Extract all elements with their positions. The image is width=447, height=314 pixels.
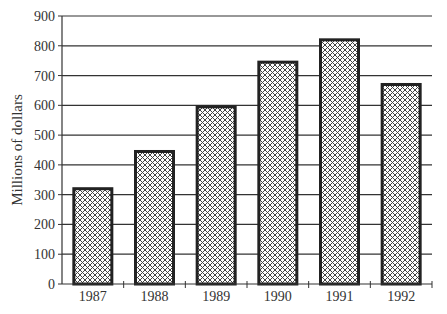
x-tick-label: 1991 [326,289,354,304]
bar-1991 [321,40,359,284]
x-tick-label: 1989 [202,289,230,304]
bar-1992 [382,84,420,284]
x-tick-label: 1992 [387,289,415,304]
y-tick-label: 600 [34,98,55,113]
y-tick-label: 0 [48,277,55,292]
bar-1988 [136,151,174,284]
y-tick-label: 500 [34,128,55,143]
x-tick-label: 1988 [141,289,169,304]
y-tick-label: 300 [34,188,55,203]
gridlines [62,16,432,254]
y-tick-label: 200 [34,217,55,232]
x-tick-label: 1990 [264,289,292,304]
bar-1990 [259,62,297,284]
y-tick-label: 700 [34,69,55,84]
y-tick-label: 400 [34,158,55,173]
x-tick-label: 1987 [79,289,107,304]
bar-1987 [74,189,112,284]
bars [74,40,420,284]
y-tick-label: 900 [34,9,55,24]
y-tick-label: 800 [34,39,55,54]
y-axis-ticks: 0100200300400500600700800900 [34,9,62,292]
bar-chart: 0100200300400500600700800900 19871988198… [0,0,447,314]
y-axis-label: Millions of dollars [9,94,25,206]
y-tick-label: 100 [34,247,55,262]
bar-1989 [197,107,235,284]
